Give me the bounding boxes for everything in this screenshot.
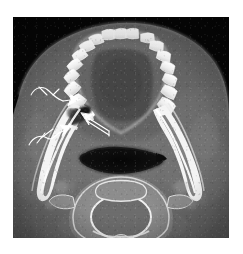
tongue-region bbox=[91, 49, 153, 122]
ct-figure bbox=[0, 0, 243, 254]
teeth-anterior-row bbox=[102, 28, 140, 40]
ct-scan-image bbox=[13, 17, 229, 238]
ct-scan-viewport bbox=[13, 17, 229, 238]
